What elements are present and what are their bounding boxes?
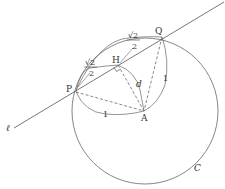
measure-ph-den: 2 [89,69,94,78]
measure-pa: 1 [103,110,108,119]
measure-ph-num: √2 [85,58,95,67]
geometry-diagram: P H Q A ℓ C √2 2 √2 2 1 1 d [0,0,225,189]
brace-pa [76,92,144,115]
measure-ah: d [136,79,142,89]
label-q: Q [155,26,162,36]
right-angle-mark [114,68,121,72]
label-h: H [112,55,120,65]
label-p: P [66,84,72,94]
label-circle-c: C [194,163,201,173]
segment-pa [76,92,144,111]
measure-hq-num: √2 [128,31,138,40]
measure-hq-den: 2 [132,42,137,51]
line-l [14,2,224,128]
measure-qa: 1 [163,74,168,83]
label-a: A [140,113,148,123]
label-line-l: ℓ [6,123,10,133]
